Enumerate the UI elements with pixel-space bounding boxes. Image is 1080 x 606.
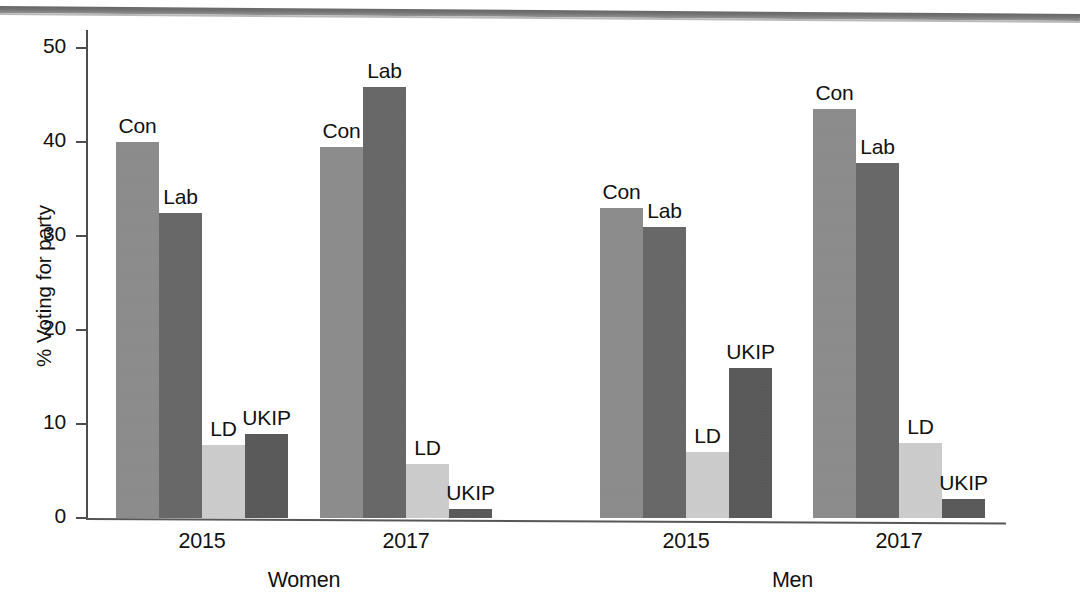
y-tick-10 bbox=[76, 423, 86, 425]
y-tick-label-20: 20 bbox=[22, 316, 66, 340]
bar-texture bbox=[202, 445, 245, 518]
bar-label-women-2017-ld: LD bbox=[405, 436, 451, 460]
bar-texture bbox=[363, 87, 406, 518]
bar-label-men-2015-ukip: UKIP bbox=[720, 340, 782, 364]
bar-texture bbox=[600, 208, 643, 518]
bar-texture bbox=[686, 452, 729, 518]
bar-label-men-2017-ld: LD bbox=[898, 415, 944, 439]
y-tick-50 bbox=[76, 47, 86, 49]
bar-texture bbox=[942, 499, 985, 518]
bar-men-2015-ld bbox=[686, 452, 729, 518]
bar-men-2017-lab bbox=[856, 163, 899, 518]
bar-label-women-2015-ukip: UKIP bbox=[236, 406, 298, 430]
bar-men-2017-ukip bbox=[942, 499, 985, 518]
bar-men-2017-con bbox=[813, 109, 856, 518]
y-tick-40 bbox=[76, 141, 86, 143]
bar-texture bbox=[159, 213, 202, 519]
y-tick-label-50: 50 bbox=[22, 34, 66, 58]
bar-label-women-2015-con: Con bbox=[115, 114, 161, 138]
bar-label-men-2015-lab: Lab bbox=[642, 199, 688, 223]
bar-women-2015-ukip bbox=[245, 434, 288, 518]
y-tick-20 bbox=[76, 329, 86, 331]
bar-women-2017-lab bbox=[363, 87, 406, 518]
y-tick-0 bbox=[76, 517, 86, 519]
bar-men-2015-con bbox=[600, 208, 643, 518]
bar-label-men-2017-con: Con bbox=[812, 81, 858, 105]
bar-label-women-2015-lab: Lab bbox=[158, 185, 204, 209]
group-sex-label-men: Men bbox=[693, 568, 893, 593]
y-tick-30 bbox=[76, 235, 86, 237]
bar-label-men-2017-lab: Lab bbox=[855, 135, 901, 159]
bar-women-2015-ld bbox=[202, 445, 245, 518]
bar-label-men-2017-ukip: UKIP bbox=[933, 471, 995, 495]
bar-texture bbox=[449, 509, 492, 518]
bar-texture bbox=[643, 227, 686, 518]
bar-women-2017-con bbox=[320, 147, 363, 518]
bar-texture bbox=[856, 163, 899, 518]
group-year-label-women-2017: 2017 bbox=[346, 529, 466, 554]
y-tick-label-0: 0 bbox=[22, 504, 66, 528]
bar-texture bbox=[813, 109, 856, 518]
bar-texture bbox=[116, 142, 159, 518]
bar-men-2015-ukip bbox=[729, 368, 772, 518]
bar-label-women-2017-lab: Lab bbox=[362, 59, 408, 83]
bar-label-women-2017-con: Con bbox=[319, 119, 365, 143]
bar-label-women-2017-ukip: UKIP bbox=[440, 481, 502, 505]
y-axis-title: % Voting for party bbox=[32, 136, 56, 436]
bar-women-2015-con bbox=[116, 142, 159, 518]
bar-texture bbox=[245, 434, 288, 518]
y-tick-label-30: 30 bbox=[22, 222, 66, 246]
group-sex-label-women: Women bbox=[204, 568, 404, 593]
bar-texture bbox=[729, 368, 772, 518]
bar-label-men-2015-ld: LD bbox=[685, 424, 731, 448]
bar-label-men-2015-con: Con bbox=[599, 180, 645, 204]
y-tick-label-40: 40 bbox=[22, 128, 66, 152]
bar-men-2015-lab bbox=[643, 227, 686, 518]
bar-women-2015-lab bbox=[159, 213, 202, 519]
bar-texture bbox=[320, 147, 363, 518]
y-tick-label-10: 10 bbox=[22, 410, 66, 434]
bar-women-2017-ukip bbox=[449, 509, 492, 518]
group-year-label-women-2015: 2015 bbox=[142, 529, 262, 554]
group-year-label-men-2015: 2015 bbox=[626, 529, 746, 554]
group-year-label-men-2017: 2017 bbox=[839, 529, 959, 554]
